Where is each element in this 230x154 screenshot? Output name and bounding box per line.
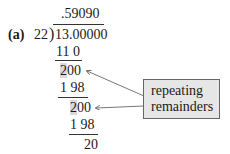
callout-arrows <box>0 0 230 154</box>
callout-line-2: remainders <box>151 99 219 115</box>
arrow-to-remainder-1 <box>87 71 144 96</box>
repeating-remainders-callout: repeating remainders <box>143 79 220 119</box>
callout-line-1: repeating <box>151 83 219 99</box>
arrow-to-remainder-2 <box>96 106 144 108</box>
